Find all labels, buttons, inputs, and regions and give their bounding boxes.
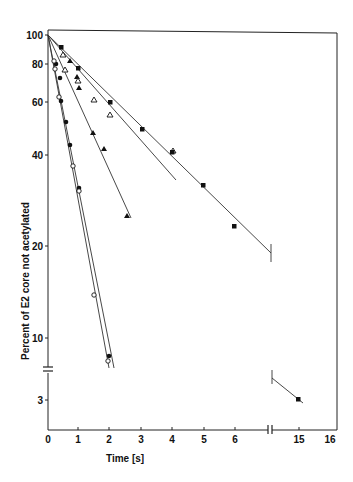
y-axis-title: Percent of E2 core not acetylated	[20, 202, 31, 360]
svg-text:3: 3	[138, 434, 144, 445]
y-axis-break	[43, 367, 53, 371]
svg-text:16: 16	[324, 434, 336, 445]
svg-text:40: 40	[32, 150, 44, 161]
svg-text:100: 100	[26, 30, 43, 41]
fit-line-open-triangles	[48, 35, 176, 180]
svg-text:2: 2	[106, 434, 112, 445]
svg-text:6: 6	[232, 434, 238, 445]
svg-text:3: 3	[37, 395, 43, 406]
svg-text:0: 0	[45, 434, 51, 445]
chart: 100 80 60 40 20 10 3 0 1 2 3 4 5 6 15 16…	[0, 0, 353, 482]
svg-text:60: 60	[32, 97, 44, 108]
fit-line-filled-circles	[48, 35, 114, 368]
svg-text:20: 20	[32, 241, 44, 252]
svg-text:1: 1	[75, 434, 81, 445]
svg-text:15: 15	[293, 434, 305, 445]
plot-frame	[48, 30, 337, 430]
fit-line-open-circles	[48, 35, 109, 368]
x-tick-labels: 0 1 2 3 4 5 6 15 16	[45, 434, 336, 445]
fit-line-filled-triangles	[48, 35, 131, 218]
svg-text:4: 4	[169, 434, 175, 445]
svg-text:5: 5	[201, 434, 207, 445]
x-axis-break	[268, 425, 272, 434]
svg-text:80: 80	[32, 59, 44, 70]
fit-line-filled-squares	[48, 35, 271, 253]
fit-lines	[48, 35, 303, 403]
x-axis-title: Time [s]	[106, 453, 144, 464]
svg-text:10: 10	[32, 333, 44, 344]
